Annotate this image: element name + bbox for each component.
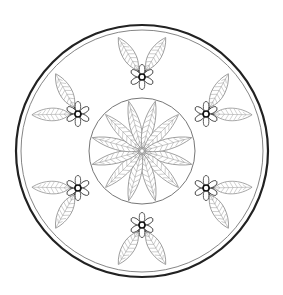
flower-leaf <box>214 108 252 121</box>
flower-petal <box>75 191 81 201</box>
flower-leaf <box>32 108 70 121</box>
flower-leaf <box>141 229 171 268</box>
flower-leaf <box>113 229 143 268</box>
satellite-flower <box>32 71 90 127</box>
flower-eye <box>203 185 209 191</box>
flower-leaf <box>32 181 70 194</box>
flower-leaf <box>214 181 252 194</box>
flower-eye <box>139 222 145 228</box>
flower-petal <box>203 191 209 201</box>
flower-petal <box>75 176 81 186</box>
central-leaf-rosette <box>91 100 193 202</box>
satellite-flower <box>194 176 252 232</box>
flower-eye <box>75 111 81 117</box>
flower-petal <box>139 213 145 223</box>
flower-petal <box>139 65 145 75</box>
flower-petal <box>203 102 209 112</box>
flower-petal <box>75 117 81 127</box>
flower-eye <box>203 111 209 117</box>
rosette-hub <box>140 149 144 153</box>
flower-petal <box>139 80 145 90</box>
satellite-flower <box>113 213 171 268</box>
flower-petal <box>75 102 81 112</box>
satellite-flower <box>194 71 252 127</box>
flower-petal <box>203 117 209 127</box>
flower-petal <box>139 228 145 238</box>
flower-petal <box>203 176 209 186</box>
flower-leaf <box>113 34 143 73</box>
flower-eye <box>139 74 145 80</box>
mandala-canvas <box>0 0 283 295</box>
mandala-drawing <box>0 0 283 295</box>
satellite-flower <box>113 34 171 89</box>
flower-leaf <box>141 34 171 73</box>
flower-eye <box>75 185 81 191</box>
satellite-flower <box>32 176 90 232</box>
